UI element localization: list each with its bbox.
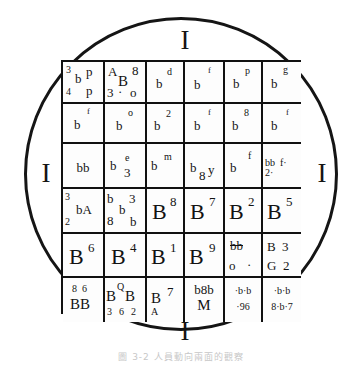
grid-cell-r1c6[interactable]: b g	[263, 62, 301, 104]
grid-cell-r2c2[interactable]: b o	[105, 104, 147, 144]
grid-cell-r2c5[interactable]: b 8	[225, 104, 263, 144]
grid-cell-r6c5[interactable]: ·b·b ·96	[225, 278, 263, 322]
grid-cell-r1c5[interactable]: b p	[225, 62, 263, 104]
glyph-r5c2-b: 4	[130, 241, 137, 254]
grid-cell-r5c2[interactable]: B 4	[105, 234, 147, 278]
glyph-r1c6-b: g	[283, 65, 288, 75]
figure-container: I I I I 3 b p 4 p A 8 B 3 · o b d b f b	[0, 0, 362, 367]
glyph-r6c3-c: A	[151, 307, 158, 317]
glyph-r1c3-b: d	[167, 67, 172, 77]
grid-cell-r2c1[interactable]: b f	[63, 104, 105, 144]
glyph-r4c5-b: 2	[248, 195, 255, 208]
glyph-r6c6-b: 8·b·7	[263, 302, 301, 312]
grid-cell-r4c6[interactable]: B 5	[263, 189, 301, 234]
glyph-r6c2-b: Q	[117, 282, 124, 292]
marker-right: I	[307, 160, 337, 187]
grid-cell-r4c2[interactable]: b 3 b 8 b	[105, 189, 147, 234]
glyph-r4c1-b: bA	[76, 203, 92, 216]
grid-cell-r3c5[interactable]: b f	[225, 144, 263, 189]
glyph-r6c3-a: B	[151, 291, 161, 306]
grid-cell-r3c2[interactable]: b e 3	[105, 144, 147, 189]
glyph-r4c2-c: b	[119, 203, 126, 216]
grid-cell-r2c6[interactable]: b f	[263, 104, 301, 144]
glyph-r1c2-f: o	[130, 86, 137, 99]
glyph-r4c5-a: B	[229, 201, 244, 223]
glyph-r2c1-a: b	[74, 118, 81, 131]
grid-cell-r4c4[interactable]: B 7	[185, 189, 225, 234]
cell-grid: 3 b p 4 p A 8 B 3 · o b d b f b p b g	[61, 60, 301, 314]
glyph-r4c2-a: b	[107, 192, 114, 205]
grid-cell-r1c1[interactable]: 3 b p 4 p	[63, 62, 105, 104]
glyph-r4c3-b: 8	[170, 195, 177, 208]
glyph-r4c4-b: 7	[209, 195, 216, 208]
grid-cell-r4c1[interactable]: 3 bA 2	[63, 189, 105, 234]
glyph-r2c4-a: b	[194, 119, 201, 132]
grid-cell-r6c3[interactable]: B 7 A	[147, 278, 185, 322]
marker-bottom: I	[170, 318, 200, 345]
grid-cell-r6c4[interactable]: b8b M	[185, 278, 225, 322]
glyph-r4c2-e: b	[130, 215, 137, 228]
grid-cell-r6c6[interactable]: ·b·b 8·b·7	[263, 278, 301, 322]
grid-cell-r6c1[interactable]: 8 6 BB	[63, 278, 105, 322]
grid-cell-r2c4[interactable]: b f	[185, 104, 225, 144]
grid-cell-r3c6[interactable]: bb f· 2·	[263, 144, 301, 189]
glyph-r6c2-a: B	[106, 289, 116, 304]
glyph-r6c2-f: 2	[131, 307, 136, 317]
grid-cell-r5c1[interactable]: B 6	[63, 234, 105, 278]
glyph-r3c5-a: b	[230, 161, 237, 174]
grid-cell-r1c3[interactable]: b d	[147, 62, 185, 104]
glyph-r2c1-b: f	[87, 107, 90, 116]
glyph-r4c2-d: 8	[107, 214, 114, 227]
glyph-r3c6-b: f·	[280, 158, 287, 168]
marker-left: I	[31, 160, 61, 187]
glyph-r5c5-a: bb	[230, 239, 243, 252]
glyph-r1c2-a: A	[108, 65, 117, 78]
grid-cell-r1c4[interactable]: b f	[185, 62, 225, 104]
glyph-r4c3-a: B	[152, 201, 167, 223]
grid-cell-r3c1[interactable]: bb	[63, 144, 105, 189]
glyph-r5c6-c: G	[267, 259, 276, 272]
glyph-r6c4-a: b8b	[185, 283, 223, 296]
glyph-r2c3-b: 2	[166, 109, 171, 119]
grid-cell-r1c2[interactable]: A 8 B 3 · o	[105, 62, 147, 104]
glyph-r1c6-a: b	[271, 77, 278, 90]
glyph-r6c1-a: 8	[72, 284, 77, 294]
grid-cell-r3c4[interactable]: b 8 y	[185, 144, 225, 189]
glyph-r6c4-b: M	[185, 298, 223, 313]
glyph-r3c5-b: f	[248, 151, 251, 161]
glyph-r6c3-b: 7	[167, 285, 174, 298]
grid-cell-r5c4[interactable]: B 9	[185, 234, 225, 278]
glyph-r4c4-a: B	[190, 201, 205, 223]
glyph-r5c4-b: 9	[209, 241, 216, 254]
grid-cell-r4c3[interactable]: B 8	[147, 189, 185, 234]
grid-cell-r3c3[interactable]: b m	[147, 144, 185, 189]
grid-cell-r5c6[interactable]: B 3 G 2	[263, 234, 301, 278]
glyph-r1c2-d: 3	[107, 86, 114, 99]
glyph-r1c1-e: p	[86, 84, 93, 97]
glyph-r2c2-a: b	[116, 119, 123, 132]
glyph-r3c4-b: 8	[199, 169, 206, 182]
glyph-r5c6-b: 3	[282, 240, 289, 253]
glyph-r5c6-d: 2	[283, 259, 290, 272]
grid-cell-r2c3[interactable]: b 2	[147, 104, 185, 144]
glyph-r4c6-a: B	[267, 201, 282, 223]
grid-cell-r5c3[interactable]: B 1	[147, 234, 185, 278]
glyph-r1c3-a: b	[156, 77, 163, 90]
glyph-r1c1-a: 3	[66, 65, 71, 75]
glyph-r4c2-b: 3	[129, 192, 136, 205]
glyph-r1c1-d: 4	[66, 87, 71, 97]
grid-cell-r5c5[interactable]: bb o ·	[225, 234, 263, 278]
glyph-r2c5-b: 8	[244, 108, 249, 118]
glyph-r4c6-b: 5	[286, 195, 293, 208]
glyph-r3c1-a: bb	[63, 161, 103, 174]
glyph-r1c5-b: p	[245, 66, 250, 76]
glyph-r5c1-a: B	[69, 246, 84, 268]
glyph-r3c3-b: m	[164, 152, 172, 162]
grid-cell-r4c5[interactable]: B 2	[225, 189, 263, 234]
glyph-r5c3-b: 1	[170, 241, 177, 254]
glyph-r1c4-a: b	[194, 78, 201, 91]
glyph-r5c3-a: B	[151, 246, 166, 268]
glyph-r3c4-c: y	[208, 163, 215, 176]
grid-cell-r6c2[interactable]: B Q B 3 6 2	[105, 278, 147, 322]
glyph-r2c4-b: f	[208, 108, 211, 117]
